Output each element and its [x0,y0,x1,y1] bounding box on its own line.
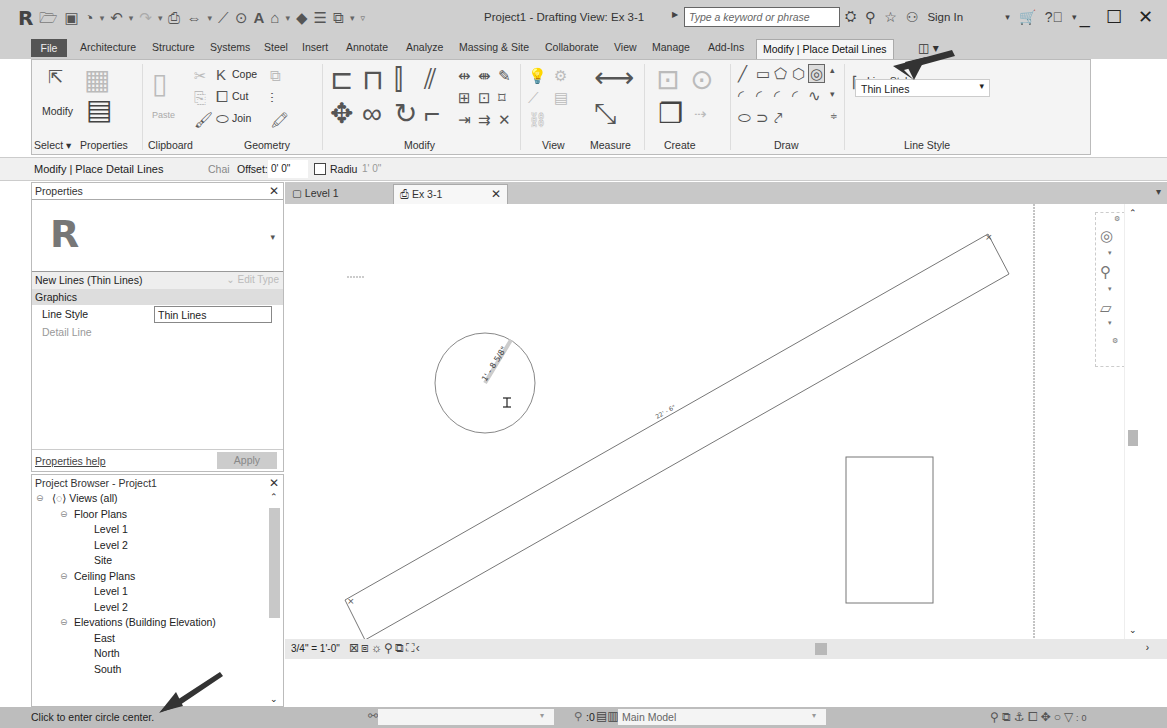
override-graphics-icon[interactable]: ⚙ [554,68,567,83]
properties-help-link[interactable]: Properties help [35,455,106,467]
undo-icon[interactable]: ↶ [110,6,123,30]
paste-icon[interactable]: ▯ [152,70,167,98]
draw-expand-icon[interactable]: ≑ [830,112,838,121]
2d-pan-icon[interactable]: ▱ [1100,299,1112,317]
drawing-canvas[interactable]: × × 22' - 6" 1' - 8 5/8" [285,204,1120,639]
shadows-icon[interactable]: ⚲ [384,641,395,655]
canvas-vertical-scrollbar[interactable]: ⌃ ⌄ [1124,204,1140,639]
close-icon[interactable]: ✕ [491,187,501,201]
start-end-arc-icon[interactable]: ◜ [738,88,744,103]
join-icon[interactable]: ⬭ [216,111,229,126]
workset-dropdown[interactable] [378,709,554,725]
drag-elements-icon[interactable]: ✥ [1041,710,1054,724]
partial-ellipse-icon[interactable]: ⊃ [756,110,769,125]
paint-icon[interactable]: 🖍 [270,112,289,127]
select-by-face-icon[interactable]: ⧠ [1028,710,1041,724]
tree-node[interactable]: ⊖Elevations (Building Elevation) [32,616,267,632]
close-icon[interactable]: ⚙ [1114,215,1120,223]
paste-button[interactable]: Paste [152,110,175,120]
revit-logo[interactable]: R [18,6,33,30]
crop-view-icon[interactable]: ⧉ [395,641,406,655]
pick-lines-icon[interactable]: ⤤ [774,110,782,125]
modify-cursor-icon[interactable]: ⇱ [48,68,63,86]
properties-icon[interactable]: ▤ [86,96,112,124]
offset-input[interactable]: 0' 0" [268,160,308,178]
chevron-down-icon[interactable]: ⌄ [1129,625,1137,635]
steering-wheel-icon[interactable]: ◎ [1100,227,1113,245]
thin-lines-icon[interactable]: ☰ [314,6,327,30]
line-style-dropdown[interactable]: Thin Lines ▾ [855,79,990,97]
tab-level-1[interactable]: ▢ Level 1 [286,184,391,204]
search-input[interactable]: Type a keyword or phrase [684,7,840,27]
tree-node[interactable]: East [32,632,267,648]
worksets-icon[interactable]: ⚯ [368,709,378,723]
cope-button[interactable]: Cope [232,68,257,80]
split-gap-icon[interactable]: ⇼ [478,68,491,83]
fillet-arc-icon[interactable]: ◜ [792,88,798,103]
join-button[interactable]: Join [232,112,251,124]
move-icon[interactable]: ✥ [330,100,353,128]
visual-style-icon[interactable]: ⧈ [361,641,371,655]
graphics-group-header[interactable]: Graphics [32,289,283,305]
view-scale[interactable]: 3/4" = 1'-0" [291,643,340,654]
cut-clipboard-icon[interactable]: ✂ [194,68,207,83]
tab-modify-place-detail-lines[interactable]: Modify | Place Detail Lines [756,39,894,59]
zoom-icon[interactable]: ⚲ [1100,263,1111,281]
tab-add-ins[interactable]: Add-Ins [708,41,744,53]
save-icon[interactable]: ▣ [64,6,78,30]
horizontal-scroll-thumb[interactable] [815,643,827,655]
background-process-icon[interactable]: ○ [1054,710,1064,724]
tabs-overflow-icon[interactable]: ▾ [1156,186,1161,197]
binoculars-icon[interactable]: ⛭ [845,8,856,25]
chevron-down-icon[interactable]: ⌄ [270,694,278,704]
tree-node[interactable]: ⊖Ceiling Plans [32,570,267,586]
draw-scroll-up-icon[interactable]: ▴ [830,66,835,75]
search-expand-icon[interactable]: ▶ [672,10,678,19]
chevron-up-icon[interactable]: ⌃ [270,492,278,502]
apply-button[interactable]: Apply [217,452,277,469]
delete-icon[interactable]: ✕ [498,112,511,127]
match-properties-icon[interactable]: 🖌 [194,112,213,127]
design-option-dropdown[interactable]: Main Model [618,709,826,725]
tree-node[interactable]: South [32,663,267,679]
tree-node[interactable]: Level 1 [32,523,267,539]
select-dropdown[interactable]: Select ▾ [34,139,71,151]
browser-scrollbar[interactable]: ⌃ ⌄ [267,492,281,706]
filter-icon[interactable]: ▽ [1064,710,1076,724]
sign-in-button[interactable]: Sign In [927,11,963,23]
show-crop-icon[interactable]: ⛶ [406,641,416,655]
tab-annotate[interactable]: Annotate [346,41,388,53]
mirror-draw-icon[interactable]: ⫽ [424,66,436,94]
chevron-up-icon[interactable]: ⌃ [1129,208,1137,218]
hide-icon[interactable]: 💡 [528,68,547,83]
close-icon[interactable]: ✕ [269,476,279,490]
circumscribed-polygon-icon[interactable]: ⬡ [792,66,805,81]
create-group-icon[interactable]: ❐ [658,100,683,128]
scroll-thumb[interactable] [1128,430,1138,446]
tab-view[interactable]: View [614,41,637,53]
minimize-button[interactable]: _ [1080,7,1090,28]
tab-collaborate[interactable]: Collaborate [545,41,599,53]
help-icon[interactable]: ?⃝ [1045,9,1063,25]
rotate-icon[interactable]: ↻ [394,100,417,128]
cut-button[interactable]: Cut [232,90,248,102]
tab-manage[interactable]: Manage [652,41,690,53]
radius-checkbox[interactable] [314,163,326,175]
draw-scroll-down-icon[interactable]: ▾ [830,90,835,99]
center-ends-arc-icon[interactable]: ◜ [756,88,762,103]
cut-geometry-icon[interactable]: ⧠ [216,89,228,104]
measure-icon[interactable]: ⇔ [186,6,201,30]
design-options-icon[interactable]: ▤ [596,709,607,723]
line-tool-icon[interactable]: ╱ [738,66,747,81]
tab-ex-3-1[interactable]: ⎙ Ex 3-1 ✕ [393,184,508,204]
tab-structure[interactable]: Structure [152,41,195,53]
select-underlay-icon[interactable]: ⧉ [1002,710,1014,724]
panel-toggle-icon[interactable]: ◫ ▾ [918,41,939,55]
create-parts-icon[interactable]: ⊙ [690,66,713,94]
text-icon[interactable]: A [254,6,265,30]
close-icon[interactable]: ✕ [269,184,279,198]
rectangle-tool-icon[interactable]: ▭ [756,66,770,81]
sun-path-icon[interactable]: ☼ [371,641,384,655]
wall-joins-icon[interactable]: ⧉ [270,68,281,83]
mirror-axis-icon[interactable]: ⫿ [394,66,403,94]
